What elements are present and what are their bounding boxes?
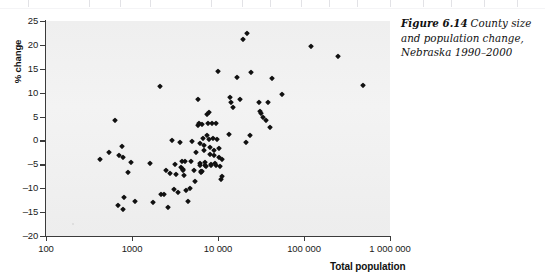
scatter-chart: % change Total population –20–15–10–5051… bbox=[0, 12, 400, 276]
y-axis-tick-label: 25 bbox=[0, 16, 38, 26]
x-axis-tick bbox=[46, 236, 47, 241]
figure-caption: Figure 6.14County size and population ch… bbox=[401, 16, 537, 60]
y-axis-tick bbox=[40, 93, 45, 94]
x-axis-tick-label: 100 000 bbox=[287, 243, 321, 254]
y-axis-tick bbox=[40, 236, 45, 237]
y-axis-tick-label: –20 bbox=[0, 231, 38, 241]
x-axis-tick-label: 1000 bbox=[122, 243, 143, 254]
y-axis-tick-label: –15 bbox=[0, 207, 38, 217]
y-axis-tick-label: 15 bbox=[0, 64, 38, 74]
x-axis-tick bbox=[390, 236, 391, 241]
y-axis-tick-label: –5 bbox=[0, 159, 38, 169]
x-axis-tick bbox=[304, 236, 305, 241]
y-axis-tick bbox=[40, 21, 45, 22]
x-axis-title: Total population bbox=[330, 261, 405, 272]
y-axis-tick bbox=[40, 188, 45, 189]
x-axis-tick bbox=[218, 236, 219, 241]
y-axis-tick bbox=[40, 117, 45, 118]
dust-speck bbox=[72, 223, 74, 225]
x-axis-tick-label: 1 000 000 bbox=[369, 243, 410, 254]
y-axis-tick bbox=[40, 69, 45, 70]
y-axis-tick-label: 5 bbox=[0, 112, 38, 122]
y-axis-tick-label: 10 bbox=[0, 88, 38, 98]
figure-container: % change Total population –20–15–10–5051… bbox=[0, 0, 545, 276]
y-axis-tick-label: 0 bbox=[0, 135, 38, 145]
y-axis-tick-label: –10 bbox=[0, 183, 38, 193]
x-axis-tick-label: 100 bbox=[38, 243, 54, 254]
y-axis-title: % change bbox=[12, 27, 23, 97]
figure-caption-label: Figure 6.14 bbox=[401, 17, 468, 29]
y-axis-tick bbox=[40, 140, 45, 141]
y-axis-tick bbox=[40, 212, 45, 213]
y-axis-tick-label: 20 bbox=[0, 40, 38, 50]
y-axis-line bbox=[45, 20, 46, 237]
y-axis-tick bbox=[40, 164, 45, 165]
x-axis-tick bbox=[132, 236, 133, 241]
y-axis-tick bbox=[40, 45, 45, 46]
x-axis-tick-label: 10 000 bbox=[204, 243, 232, 254]
